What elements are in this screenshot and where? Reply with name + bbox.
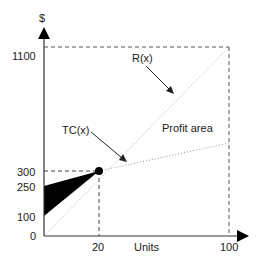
x-axis-arrow-icon <box>237 230 249 242</box>
y-tick-100: 100 <box>17 211 35 223</box>
y-tick-0: 0 <box>30 230 36 242</box>
tc-arrowhead-icon <box>119 154 127 162</box>
total-cost-label: TC(x) <box>62 124 90 136</box>
profit-area-label: Profit area <box>162 122 214 134</box>
x-axis-label: Units <box>134 241 160 253</box>
y-axis-label: $ <box>39 12 45 24</box>
revenue-label: R(x) <box>132 52 153 64</box>
y-tick-250: 250 <box>17 181 35 193</box>
y-axis-arrow-icon <box>38 27 50 39</box>
revenue-line <box>44 47 229 236</box>
tc-annotation-arrow <box>91 132 122 158</box>
y-tick-300: 300 <box>17 166 35 178</box>
revenue-annotation-arrow <box>146 66 170 90</box>
loss-region <box>44 171 99 216</box>
x-tick-20: 20 <box>92 241 104 253</box>
y-tick-1100: 1100 <box>12 50 36 62</box>
x-tick-100: 100 <box>220 241 238 253</box>
break-even-point <box>95 167 103 175</box>
total-cost-line <box>99 143 229 171</box>
break-even-chart: $ Units R(x) TC(x) Profit area 1100 300 … <box>0 0 261 262</box>
